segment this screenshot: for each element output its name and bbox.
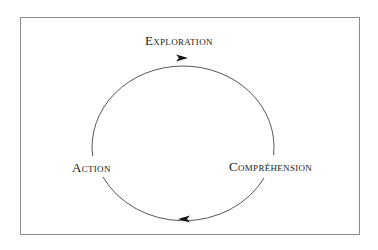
node-label-comprehension: Compréhension: [229, 160, 312, 173]
cycle-arc-lower: [103, 177, 264, 221]
node-label-exploration: Exploration: [145, 34, 213, 47]
node-label-action: Action: [72, 161, 111, 174]
cycle-arc-upper: [92, 66, 274, 156]
arrow-right-icon: [176, 55, 188, 62]
arrow-left-icon: [178, 216, 190, 223]
